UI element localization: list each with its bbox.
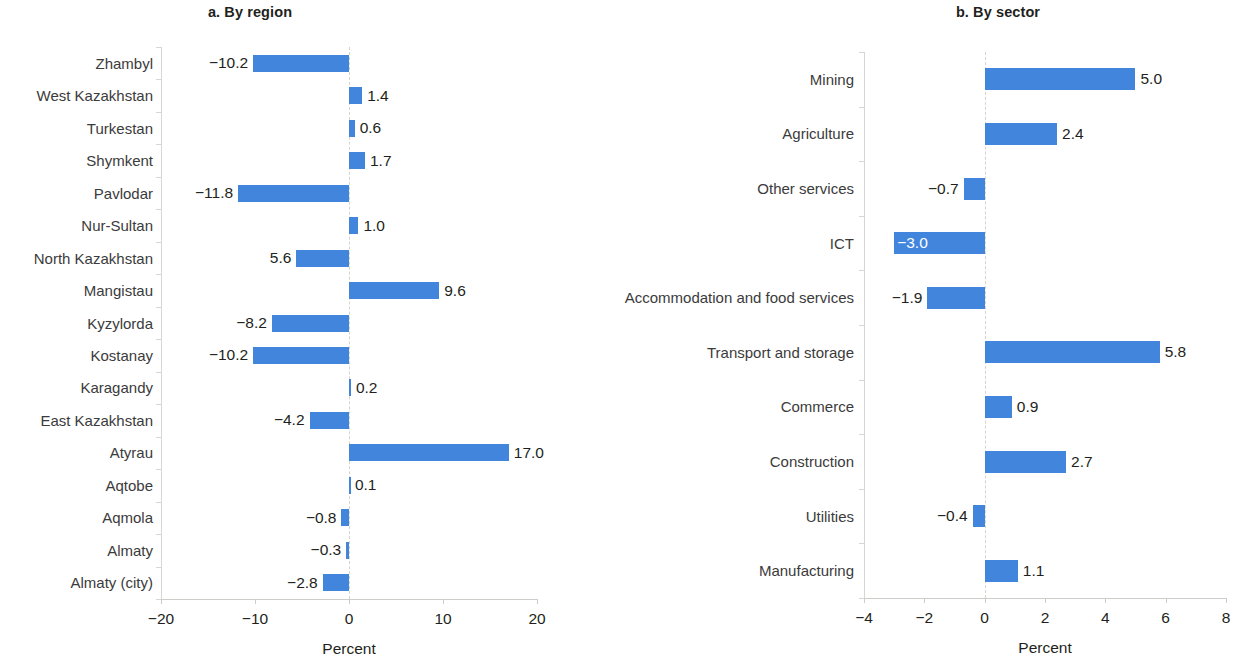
bar[interactable] xyxy=(985,451,1066,473)
bar[interactable] xyxy=(964,178,985,200)
category-label: Accommodation and food services xyxy=(625,290,854,305)
category-label: Nur-Sultan xyxy=(81,218,153,233)
category-label: Almaty xyxy=(107,543,153,558)
x-axis-tick xyxy=(1045,598,1046,603)
bar-value-label: −0.3 xyxy=(311,542,342,558)
bar-value-label: −0.7 xyxy=(928,181,959,197)
chart-panel-by-region: a. By region Zhambyl−10.2West Kazakhstan… xyxy=(0,0,600,653)
x-axis-tick xyxy=(443,599,444,604)
y-axis-tick xyxy=(859,52,864,53)
y-axis-tick xyxy=(859,107,864,108)
y-axis-tick xyxy=(156,502,161,503)
bar-value-label: −2.8 xyxy=(287,575,318,591)
category-label: West Kazakhstan xyxy=(37,88,153,103)
bar[interactable] xyxy=(296,250,349,267)
category-label: Mangistau xyxy=(84,283,153,298)
x-axis-tick xyxy=(1226,598,1227,603)
bar-value-label: 5.6 xyxy=(270,250,292,266)
bar[interactable] xyxy=(985,560,1018,582)
category-label: Kostanay xyxy=(90,348,153,363)
bar[interactable] xyxy=(341,509,349,526)
category-label: Mining xyxy=(810,72,854,87)
x-axis-tick xyxy=(537,599,538,604)
y-axis-tick xyxy=(156,307,161,308)
x-axis-tick-label: 8 xyxy=(1222,610,1231,626)
bar[interactable] xyxy=(349,379,351,396)
bar-value-label: −0.4 xyxy=(937,508,968,524)
category-label: Shymkent xyxy=(86,153,153,168)
category-label: Commerce xyxy=(781,399,854,414)
x-axis-tick xyxy=(1166,598,1167,603)
bar[interactable] xyxy=(349,152,365,169)
y-axis-tick xyxy=(859,216,864,217)
bar[interactable] xyxy=(238,185,349,202)
bar[interactable] xyxy=(349,120,355,137)
bar-value-label: 0.1 xyxy=(355,477,377,493)
bar[interactable] xyxy=(927,287,984,309)
y-axis-tick xyxy=(859,325,864,326)
bar[interactable] xyxy=(349,217,358,234)
bar-value-label: 5.0 xyxy=(1141,71,1163,87)
x-axis-tick xyxy=(161,599,162,604)
y-axis-tick xyxy=(156,372,161,373)
y-axis-tick xyxy=(156,274,161,275)
bar-value-label: 2.4 xyxy=(1062,126,1084,142)
bar-value-label: 1.7 xyxy=(370,153,392,169)
x-axis-title: Percent xyxy=(322,641,375,657)
bar[interactable] xyxy=(310,412,349,429)
bar[interactable] xyxy=(985,68,1136,90)
y-axis-tick xyxy=(156,534,161,535)
y-axis-tick xyxy=(859,489,864,490)
category-label: ICT xyxy=(830,236,854,251)
bar[interactable] xyxy=(323,574,349,591)
y-axis-tick xyxy=(156,242,161,243)
y-axis-tick xyxy=(156,567,161,568)
bar[interactable] xyxy=(253,55,349,72)
bar-value-label: 1.4 xyxy=(367,88,389,104)
bar[interactable] xyxy=(346,542,349,559)
category-label: Utilities xyxy=(806,509,854,524)
y-axis-tick xyxy=(156,177,161,178)
x-axis-tick-label: −2 xyxy=(915,610,933,626)
x-axis-tick-label: 6 xyxy=(1161,610,1170,626)
category-label: Agriculture xyxy=(782,126,854,141)
plot-area-by-sector: Mining5.0Agriculture2.4Other services−0.… xyxy=(864,52,1226,598)
x-axis-tick xyxy=(349,599,350,604)
bar-value-label: 1.0 xyxy=(363,218,385,234)
category-label: Karagandy xyxy=(80,380,153,395)
category-label: East Kazakhstan xyxy=(40,413,153,428)
bar-value-label: −4.2 xyxy=(274,412,305,428)
y-axis-tick xyxy=(859,543,864,544)
x-axis-tick-label: −20 xyxy=(148,611,174,627)
x-axis-tick xyxy=(255,599,256,604)
x-axis-tick-label: 0 xyxy=(980,610,989,626)
bar-value-label: −0.8 xyxy=(306,510,337,526)
category-label: Transport and storage xyxy=(707,345,854,360)
category-label: Almaty (city) xyxy=(71,575,154,590)
bar[interactable] xyxy=(349,477,351,494)
bar[interactable] xyxy=(349,87,362,104)
bar-value-label-inside: −3.0 xyxy=(897,235,928,251)
x-axis-tick-label: −10 xyxy=(242,611,268,627)
y-axis-tick xyxy=(156,79,161,80)
x-axis-tick xyxy=(1105,598,1106,603)
x-axis-title: Percent xyxy=(1018,640,1071,656)
y-axis-tick xyxy=(859,380,864,381)
bar[interactable] xyxy=(985,341,1160,363)
category-label: Construction xyxy=(770,454,854,469)
x-axis-tick-label: 4 xyxy=(1101,610,1110,626)
category-label: Other services xyxy=(757,181,854,196)
y-axis-tick xyxy=(156,469,161,470)
bar-value-label: 2.7 xyxy=(1071,454,1093,470)
bar[interactable] xyxy=(349,282,439,299)
bar[interactable] xyxy=(985,396,1012,418)
bar[interactable] xyxy=(985,123,1057,145)
plot-area-by-region: Zhambyl−10.2West Kazakhstan1.4Turkestan0… xyxy=(161,47,537,599)
bar[interactable] xyxy=(253,347,349,364)
bar[interactable] xyxy=(349,444,509,461)
bar[interactable] xyxy=(272,315,349,332)
y-axis-line xyxy=(161,47,162,599)
bar[interactable] xyxy=(973,505,985,527)
bar-value-label: 17.0 xyxy=(514,445,544,461)
